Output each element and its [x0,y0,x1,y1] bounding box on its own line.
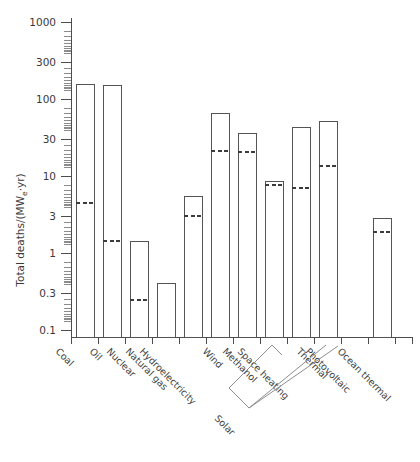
y-tick-labels: 1000 300 100 30 10 3 1 0.3 0.1 [29,16,56,336]
chart-container: Total deaths/(MWe·yr) 1000 300 100 30 10… [0,0,420,462]
bar-photovoltaic[interactable] [319,121,337,337]
bar-natural-gas[interactable] [157,283,175,337]
bar-thermal[interactable] [292,127,310,337]
x-label-coal: Coal [54,346,77,369]
y-tick-label-1: 1 [49,247,56,259]
bar-methanol[interactable] [238,133,256,337]
y-axis-label-prefix: Total deaths/(MW [14,195,26,287]
x-label-wind: Wind [201,346,226,371]
y-tick-label-30: 30 [43,133,56,145]
bar-chart-svg: Total deaths/(MWe·yr) 1000 300 100 30 10… [0,0,420,462]
bar-wind[interactable] [211,113,229,337]
y-tick-label-100: 100 [36,93,56,105]
bars-group [76,84,391,337]
y-tick-label-3: 3 [49,210,56,222]
y-tick-label-0.1: 0.1 [39,324,56,336]
solar-group-label: Solar [213,413,238,438]
y-tick-label-10: 10 [43,170,56,182]
bar-coal[interactable] [76,84,94,337]
y-axis-label: Total deaths/(MWe·yr) [14,173,29,287]
bar-ocean-thermal[interactable] [373,218,391,337]
y-tick-label-1000: 1000 [29,16,56,28]
bar-space-heating[interactable] [265,181,283,337]
x-label-ocean-thermal: Ocean thermal [336,346,394,404]
y-tick-label-300: 300 [36,56,56,68]
x-axis-ticks [71,337,412,344]
y-tick-label-0.3: 0.3 [39,287,56,299]
x-label-oil: Oil [88,346,105,363]
y-axis-label-suffix: ·yr) [14,173,26,191]
bar-nuclear[interactable] [130,241,148,337]
bar-hydroelectricity[interactable] [184,196,202,337]
bar-oil[interactable] [103,85,121,337]
x-axis-category-labels: Coal Oil Nuclear Natural gas Hydroelectr… [54,345,394,407]
